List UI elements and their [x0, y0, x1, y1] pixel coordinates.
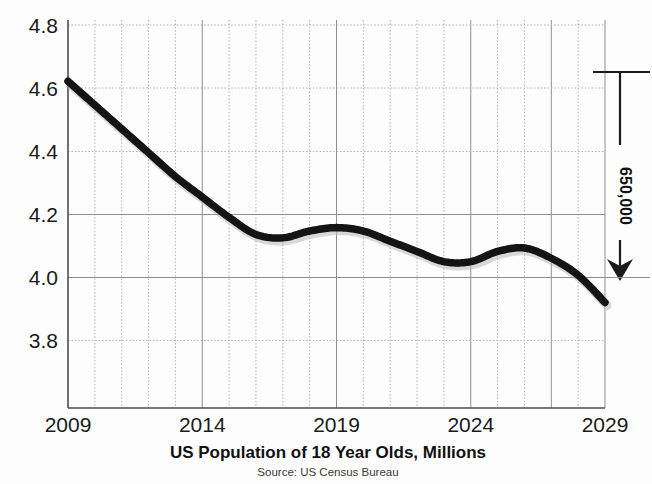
y-tick-label: 4.6 — [29, 77, 58, 100]
chart-background — [0, 0, 652, 484]
y-tick-label: 4.0 — [29, 266, 58, 289]
x-tick-label: 2009 — [45, 413, 92, 436]
y-tick-label: 4.8 — [29, 14, 58, 37]
chart-figure: 4.8 4.6 4.4 4.2 4.0 3.8 2009 2014 2019 2… — [0, 0, 652, 484]
x-tick-label: 2029 — [582, 413, 629, 436]
x-tick-label: 2014 — [179, 413, 226, 436]
chart-svg: 4.8 4.6 4.4 4.2 4.0 3.8 2009 2014 2019 2… — [0, 0, 652, 484]
y-tick-label: 4.4 — [29, 140, 59, 163]
y-tick-label: 3.8 — [29, 329, 58, 352]
x-tick-label: 2019 — [313, 413, 360, 436]
y-tick-label: 4.2 — [29, 203, 58, 226]
chart-source-note: Source: US Census Bureau — [257, 466, 398, 478]
chart-title: US Population of 18 Year Olds, Millions — [170, 443, 486, 462]
annotation-value-label: 650,000 — [617, 167, 634, 225]
x-tick-label: 2024 — [447, 413, 494, 436]
